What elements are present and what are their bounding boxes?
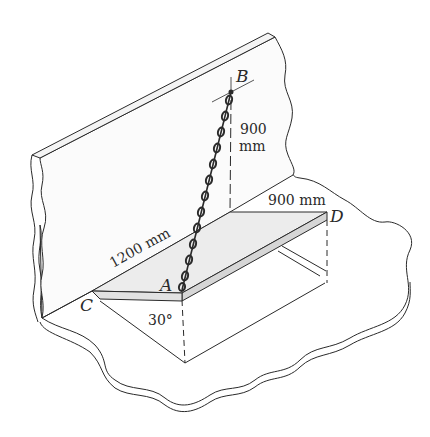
statics-diagram: B A C D 900 mm 900 mm 1200 mm 30° [0,0,430,437]
label-vertical-mm: mm [239,138,266,154]
point-B-dot [230,91,233,94]
wall-left-edge [31,155,38,322]
label-A: A [158,275,172,295]
label-plate-width: 900 mm [268,192,326,208]
label-B: B [235,66,249,86]
label-angle: 30° [148,312,173,328]
label-D: D [329,206,344,226]
label-vertical-900: 900 [240,121,267,137]
label-C: C [80,295,93,315]
